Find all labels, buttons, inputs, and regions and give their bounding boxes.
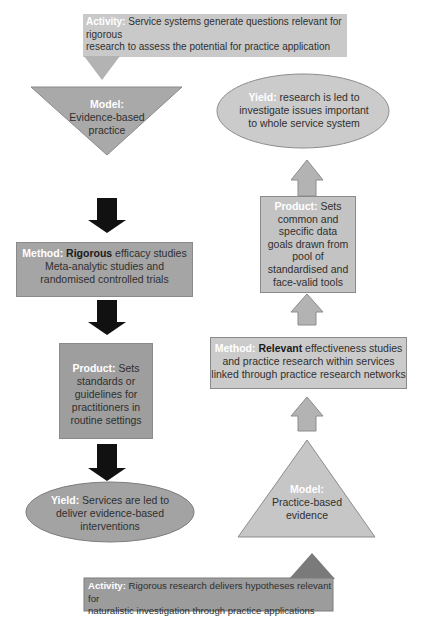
data-goals-product-text: Product: Sets common and specific data g… [261, 200, 355, 288]
relevant-method-text: Method: Relevant effectiveness studies a… [211, 342, 406, 381]
data-goals-product-box: Product: Sets common and specific data g… [260, 196, 356, 293]
top-activity-pointer [84, 56, 120, 80]
activity-label: Activity: [86, 16, 125, 27]
down-arrow-icon [88, 198, 126, 233]
up-arrow-icon [291, 160, 323, 196]
rigorous-method-box: Method: Rigorous efficacy studies Meta-a… [16, 242, 193, 297]
top-activity-text: Activity: Service systems generate quest… [86, 16, 344, 54]
down-arrow-icon [88, 300, 126, 335]
service-system-yield-text: Yield: research is led to investigate is… [224, 91, 384, 130]
evidence-based-model-text: Model: Evidence-based practice [50, 98, 164, 137]
activity-label: Activity: [88, 580, 126, 591]
down-arrow-icon [88, 444, 126, 481]
model-label: Model: [252, 483, 362, 496]
standards-product-box: Product: Sets standards or guidelines fo… [59, 343, 153, 439]
relevant-method-box: Method: Relevant effectiveness studies a… [210, 337, 407, 389]
up-arrow-icon [291, 397, 323, 431]
up-arrow-icon [291, 294, 323, 325]
rigorous-method-text: Method: Rigorous efficacy studies Meta-a… [17, 247, 192, 286]
standards-product-text: Product: Sets standards or guidelines fo… [60, 362, 152, 427]
bottom-activity-text: Activity: Rigorous research delivers hyp… [88, 580, 332, 618]
practice-based-model-text: Model: Practice-based evidence [252, 483, 362, 522]
bottom-activity-pointer [289, 553, 335, 579]
evidence-based-yield-text: Yield: Services are led to deliver evide… [36, 494, 184, 533]
model-label: Model: [50, 98, 164, 111]
